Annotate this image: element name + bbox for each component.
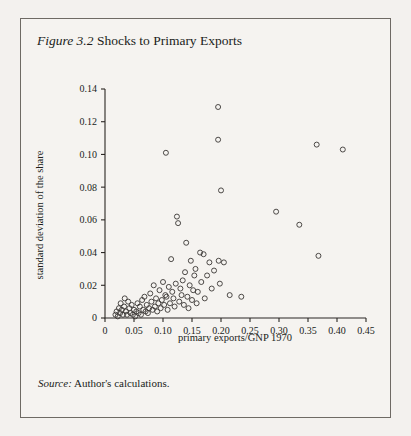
data-point xyxy=(227,293,232,298)
data-point xyxy=(219,188,224,193)
data-point xyxy=(171,296,176,301)
source-label: Source: xyxy=(38,377,72,389)
data-point xyxy=(186,306,191,311)
figure-container: Figure 3.2 Shocks to Primary Exports 00.… xyxy=(20,18,391,418)
data-point xyxy=(212,268,217,273)
y-tick-label-3: 0.06 xyxy=(80,214,98,225)
data-point xyxy=(187,283,192,288)
data-point xyxy=(216,104,221,109)
y-tick-label-7: 0.14 xyxy=(80,83,98,94)
source-note: Source: Author's calculations. xyxy=(38,377,169,389)
data-point xyxy=(159,298,164,303)
data-point xyxy=(297,222,302,227)
source-text: Author's calculations. xyxy=(74,377,169,389)
scatter-plot: 00.020.040.060.080.100.120.14 00.050.100… xyxy=(21,19,392,419)
data-point xyxy=(195,289,200,294)
y-tick-label-5: 0.10 xyxy=(80,149,98,160)
data-point xyxy=(172,304,177,309)
y-tick-label-4: 0.08 xyxy=(80,182,98,193)
data-point xyxy=(162,302,167,307)
y-tick-label-6: 0.12 xyxy=(80,116,98,127)
data-point xyxy=(194,301,199,306)
x-tick-label-2: 0.10 xyxy=(154,325,172,336)
data-point xyxy=(179,293,184,298)
data-point xyxy=(149,299,154,304)
data-point xyxy=(166,284,171,289)
y-tick-label-1: 0.02 xyxy=(80,280,98,291)
data-point xyxy=(216,137,221,142)
data-point xyxy=(164,294,169,299)
data-point xyxy=(193,266,198,271)
data-point xyxy=(157,288,162,293)
data-point xyxy=(185,294,190,299)
data-point xyxy=(154,296,159,301)
data-point xyxy=(205,273,210,278)
data-point xyxy=(151,283,156,288)
data-point xyxy=(176,221,181,226)
data-point xyxy=(167,301,172,306)
data-point xyxy=(161,280,166,285)
data-point xyxy=(190,298,195,303)
x-tick-label-9: 0.45 xyxy=(357,325,375,336)
data-point xyxy=(199,280,204,285)
data-point xyxy=(169,257,174,262)
data-point xyxy=(314,142,319,147)
page-running-head xyxy=(0,0,411,12)
data-point xyxy=(192,273,197,278)
x-tick-label-8: 0.40 xyxy=(328,325,346,336)
x-tick-label-0: 0 xyxy=(103,325,108,336)
data-point xyxy=(316,253,321,258)
axis-lines xyxy=(105,89,366,318)
data-points xyxy=(113,104,345,318)
data-point xyxy=(183,270,188,275)
axis-tick-marks xyxy=(101,89,366,322)
data-point xyxy=(209,286,214,291)
data-point xyxy=(177,299,182,304)
data-point xyxy=(340,147,345,152)
x-tick-label-1: 0.05 xyxy=(125,325,143,336)
data-point xyxy=(148,291,153,296)
data-point xyxy=(202,296,207,301)
data-point xyxy=(165,307,170,312)
data-point xyxy=(239,294,244,299)
data-point xyxy=(178,286,183,291)
data-point xyxy=(184,240,189,245)
plot-svg: 00.020.040.060.080.100.120.14 00.050.100… xyxy=(21,19,392,419)
data-point xyxy=(163,150,168,155)
data-point xyxy=(170,289,175,294)
y-tick-label-2: 0.04 xyxy=(80,247,98,258)
y-axis-title: standard deviation of the share xyxy=(34,150,45,279)
data-point xyxy=(188,258,193,263)
data-point xyxy=(221,260,226,265)
data-point xyxy=(173,281,178,286)
y-axis-tick-labels: 00.020.040.060.080.100.120.14 xyxy=(80,83,98,323)
x-tick-label-7: 0.35 xyxy=(299,325,317,336)
data-point xyxy=(216,258,221,263)
data-point xyxy=(174,214,179,219)
data-point xyxy=(181,302,186,307)
y-tick-label-0: 0 xyxy=(92,312,97,323)
data-point xyxy=(274,209,279,214)
x-axis-title: primary exports/GNP 1970 xyxy=(178,332,292,343)
data-point xyxy=(207,260,212,265)
data-point xyxy=(217,281,222,286)
data-point xyxy=(180,278,185,283)
